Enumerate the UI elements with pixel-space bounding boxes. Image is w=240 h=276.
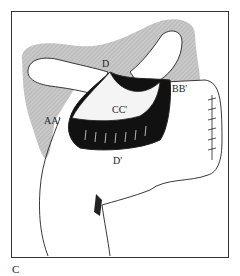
label-d: D [102, 58, 109, 69]
label-cc: CC' [112, 104, 127, 115]
label-aa: AA' [44, 115, 60, 126]
panel-label: C [12, 263, 19, 275]
label-d-prime: D' [113, 155, 122, 166]
label-bb: BB' [172, 83, 187, 94]
surgical-illustration [0, 0, 240, 276]
